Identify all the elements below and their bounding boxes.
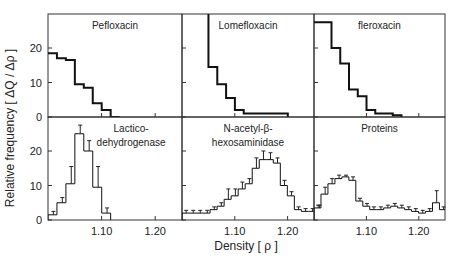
panel-proteins: 1.101.20Proteins: [314, 117, 446, 237]
histogram-steps: [314, 177, 446, 220]
y-tick-label: 20: [30, 145, 42, 157]
panel-title: Proteins: [361, 123, 398, 134]
panel-grid: 01020PefloxacinLomefloxacinfleroxacin1.1…: [30, 10, 447, 237]
histogram-steps: [182, 160, 322, 220]
panel-title: Lactico-: [114, 123, 149, 134]
x-tick-label: 1.10: [356, 225, 377, 237]
x-axis-label: Density [ ρ ]: [214, 239, 278, 253]
histogram-figure: 01020PefloxacinLomefloxacinfleroxacin1.1…: [0, 0, 456, 267]
x-tick-label: 1.10: [224, 225, 245, 237]
panel-title: dehydrogenase: [97, 137, 166, 148]
panel-title: Pefloxacin: [92, 20, 138, 31]
panel-nacetylhexosaminidase: 1.101.20N-acetyl-β-hexosaminidase: [182, 117, 322, 237]
x-tick-label: 1.20: [408, 225, 429, 237]
panel-pefloxacin: 01020Pefloxacin: [30, 14, 182, 123]
y-tick-label: 10: [30, 180, 42, 192]
panel-title: Lomefloxacin: [219, 20, 278, 31]
x-tick-label: 1.20: [277, 225, 298, 237]
histogram-steps: [48, 53, 120, 117]
panel-lacticodehydrogenase: 1.101.2001020Lactico-dehydrogenase: [30, 117, 182, 237]
x-tick-label: 1.10: [91, 225, 112, 237]
panel-title: fleroxacin: [358, 20, 401, 31]
histogram-steps: [314, 22, 402, 117]
panel-lomefloxacin: Lomefloxacin: [182, 10, 314, 117]
y-tick-label: 20: [30, 42, 42, 54]
panel-title: hexosaminidase: [212, 137, 285, 148]
panel-fleroxacin: fleroxacin: [314, 14, 445, 117]
panel-title: N-acetyl-β-: [223, 123, 272, 134]
y-tick-label: 10: [30, 77, 42, 89]
y-axis-label: Relative frequency [ ΔQ / Δρ ]: [3, 49, 17, 207]
y-tick-label: 0: [36, 214, 42, 226]
x-tick-label: 1.20: [144, 225, 165, 237]
y-tick-label: 0: [36, 111, 42, 123]
